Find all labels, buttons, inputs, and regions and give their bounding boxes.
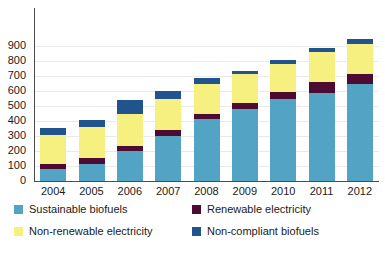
y-axis-tick-label: 200 <box>0 145 26 156</box>
bar-segment[interactable] <box>117 146 143 151</box>
bar-segment[interactable] <box>270 64 296 92</box>
bar-segment[interactable] <box>270 60 296 64</box>
legend-item[interactable]: Non-renewable electricity <box>14 225 153 237</box>
y-axis-tick-label: 0 <box>0 175 26 186</box>
legend-label: Non-renewable electricity <box>29 225 153 237</box>
y-axis-tick-label: 600 <box>0 85 26 96</box>
bar-segment[interactable] <box>79 120 105 127</box>
bar-segment[interactable] <box>155 136 181 181</box>
bar-segment[interactable] <box>117 100 143 114</box>
bar-segment[interactable] <box>347 84 373 181</box>
bar-segment[interactable] <box>40 169 66 181</box>
bar-segment[interactable] <box>40 164 66 169</box>
legend-item[interactable]: Renewable electricity <box>192 203 311 215</box>
bar-segment[interactable] <box>194 84 220 114</box>
bar-segment[interactable] <box>232 103 258 109</box>
bar-series-container <box>34 8 379 181</box>
bar-segment[interactable] <box>309 52 335 82</box>
x-axis-tick-label: 2004 <box>33 184 73 198</box>
bar-segment[interactable] <box>79 127 105 158</box>
legend-label: Sustainable biofuels <box>29 203 127 215</box>
x-axis-tick-labels: 200420052006200720082009201020112012 <box>34 184 379 200</box>
bar-segment[interactable] <box>40 135 66 164</box>
bar-segment[interactable] <box>309 48 335 53</box>
legend-swatch-icon <box>192 227 201 236</box>
y-axis-tick-label: 500 <box>0 100 26 111</box>
bar-segment[interactable] <box>117 151 143 181</box>
bar-segment[interactable] <box>79 164 105 181</box>
bar-segment[interactable] <box>194 114 220 119</box>
legend-item[interactable]: Non-compliant biofuels <box>192 225 319 237</box>
x-axis-line <box>34 181 379 182</box>
bar-segment[interactable] <box>309 93 335 182</box>
bar-segment[interactable] <box>117 114 143 146</box>
bar-segment[interactable] <box>270 99 296 181</box>
bar-segment[interactable] <box>347 39 373 44</box>
x-axis-tick-label: 2006 <box>110 184 150 198</box>
y-axis-tick-label: 400 <box>0 115 26 126</box>
bar-segment[interactable] <box>79 158 105 164</box>
stacked-bar-chart: 0100200300400500600700800900 20042005200… <box>0 0 385 254</box>
x-axis-tick-label: 2007 <box>148 184 188 198</box>
legend-label: Non-compliant biofuels <box>207 225 319 237</box>
legend-swatch-icon <box>192 205 201 214</box>
x-axis-tick-label: 2009 <box>225 184 265 198</box>
plot-area: 0100200300400500600700800900 <box>34 8 379 181</box>
y-axis-tick-label: 900 <box>0 40 26 51</box>
x-axis-tick-label: 2010 <box>263 184 303 198</box>
x-axis-tick-label: 2012 <box>340 184 380 198</box>
chart-legend: Sustainable biofuelsRenewable electricit… <box>14 203 374 247</box>
bar-segment[interactable] <box>347 74 373 85</box>
bar-segment[interactable] <box>155 99 181 131</box>
bar-segment[interactable] <box>155 130 181 136</box>
y-axis-tick-label: 300 <box>0 130 26 141</box>
y-axis-tick-label: 100 <box>0 160 26 171</box>
bar-segment[interactable] <box>40 128 66 135</box>
y-axis-line <box>34 8 35 182</box>
bar-segment[interactable] <box>194 119 220 181</box>
bar-segment[interactable] <box>232 71 258 74</box>
bar-segment[interactable] <box>347 44 373 74</box>
x-axis-tick-label: 2011 <box>302 184 342 198</box>
y-axis-tick-label: 700 <box>0 70 26 81</box>
legend-swatch-icon <box>14 227 23 236</box>
legend-swatch-icon <box>14 205 23 214</box>
legend-item[interactable]: Sustainable biofuels <box>14 203 127 215</box>
bar-segment[interactable] <box>194 78 220 83</box>
x-axis-tick-label: 2008 <box>187 184 227 198</box>
bar-segment[interactable] <box>232 74 258 103</box>
legend-label: Renewable electricity <box>207 203 311 215</box>
bar-segment[interactable] <box>270 92 296 100</box>
bar-segment[interactable] <box>155 91 181 99</box>
x-axis-tick-label: 2005 <box>72 184 112 198</box>
bar-segment[interactable] <box>309 82 335 93</box>
bar-segment[interactable] <box>232 109 258 181</box>
y-axis-tick-label: 800 <box>0 55 26 66</box>
